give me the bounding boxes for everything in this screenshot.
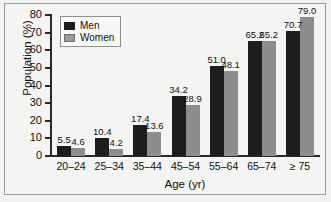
data-label-women: 65.2 bbox=[255, 29, 283, 40]
x-tick-label: 20–24 bbox=[52, 160, 90, 172]
data-label-women: 4.6 bbox=[64, 136, 92, 147]
data-label-women: 13.6 bbox=[140, 120, 168, 131]
bar-women bbox=[262, 41, 276, 156]
bar-group: 17.413.6 bbox=[133, 15, 161, 156]
bar-men bbox=[286, 31, 300, 156]
bar-group: 51.048.1 bbox=[210, 15, 238, 156]
data-label-men: 10.4 bbox=[88, 126, 116, 137]
data-label-women: 28.9 bbox=[179, 93, 207, 104]
chart-legend: Men Women bbox=[60, 16, 121, 47]
y-tick-mark bbox=[45, 120, 51, 122]
x-tick-label: 35–44 bbox=[128, 160, 166, 172]
bar-women bbox=[224, 71, 238, 156]
y-axis-title: Population (%) bbox=[21, 0, 33, 118]
chart-frame: 01020304050607080 Population (%) 5.54.61… bbox=[4, 3, 326, 195]
bar-group: 65.265.2 bbox=[248, 15, 276, 156]
bar-women bbox=[109, 149, 123, 156]
legend-label-men: Men bbox=[80, 20, 99, 31]
y-tick-mark bbox=[45, 67, 51, 69]
y-tick-label: 10 bbox=[2, 130, 42, 145]
data-label-women: 48.1 bbox=[217, 59, 245, 70]
bar-women bbox=[71, 148, 85, 156]
y-tick-mark bbox=[45, 14, 51, 16]
data-label-men: 70.7 bbox=[279, 19, 307, 30]
x-tick-label: 55–64 bbox=[205, 160, 243, 172]
bar-women bbox=[300, 17, 314, 156]
legend-item-women: Women bbox=[64, 32, 114, 43]
y-tick-mark bbox=[45, 49, 51, 51]
y-tick-mark bbox=[45, 32, 51, 34]
bar-group: 70.779.0 bbox=[286, 15, 314, 156]
legend-swatch-women-icon bbox=[64, 34, 75, 42]
y-tick-mark bbox=[45, 85, 51, 87]
x-tick-label: 25–34 bbox=[90, 160, 128, 172]
x-tick-label: 65–74 bbox=[243, 160, 281, 172]
figure-bar-chart-population-by-age: 01020304050607080 Population (%) 5.54.61… bbox=[0, 0, 331, 202]
bar-women bbox=[186, 105, 200, 156]
bar-group: 34.228.9 bbox=[172, 15, 200, 156]
legend-swatch-men-icon bbox=[64, 22, 75, 30]
legend-item-men: Men bbox=[64, 20, 114, 31]
bar-men bbox=[172, 96, 186, 156]
legend-label-women: Women bbox=[80, 32, 114, 43]
x-axis-title: Age (yr) bbox=[50, 178, 320, 190]
bar-men bbox=[57, 146, 71, 156]
bar-men bbox=[210, 66, 224, 156]
bar-men bbox=[248, 41, 262, 156]
bar-women bbox=[147, 132, 161, 156]
data-label-women: 79.0 bbox=[293, 5, 321, 16]
y-tick-mark bbox=[45, 102, 51, 104]
y-tick-mark bbox=[45, 155, 51, 157]
x-tick-label: 45–54 bbox=[166, 160, 204, 172]
x-tick-label: ≥ 75 bbox=[281, 160, 319, 172]
data-label-women: 4.2 bbox=[102, 137, 130, 148]
y-tick-label: 0 bbox=[2, 148, 42, 163]
